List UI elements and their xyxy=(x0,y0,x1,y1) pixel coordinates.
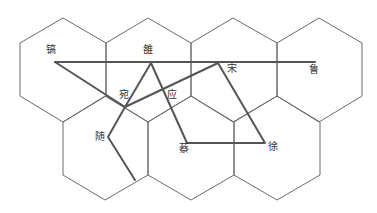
label-cai: 蔡 xyxy=(179,143,189,154)
routes xyxy=(55,62,315,180)
label-xu: 徐 xyxy=(268,141,278,152)
route-gao-wan xyxy=(55,62,125,107)
label-lu: 鲁 xyxy=(309,64,319,75)
label-wan: 宛 xyxy=(119,89,129,100)
hex-grid xyxy=(20,18,362,200)
label-song: 宋 xyxy=(227,63,237,74)
label-sui: 随 xyxy=(95,131,105,142)
hex-cell xyxy=(63,96,148,200)
hex-cell xyxy=(148,96,234,200)
label-ying: 应 xyxy=(167,89,177,100)
hex-cell xyxy=(277,18,362,122)
hex-cell xyxy=(106,18,191,122)
label-gao: 镐 xyxy=(46,44,56,55)
hex-route-diagram xyxy=(0,0,377,213)
label-luo: 雒 xyxy=(143,44,153,55)
hex-cell xyxy=(20,18,106,122)
route-main-path xyxy=(108,63,265,180)
